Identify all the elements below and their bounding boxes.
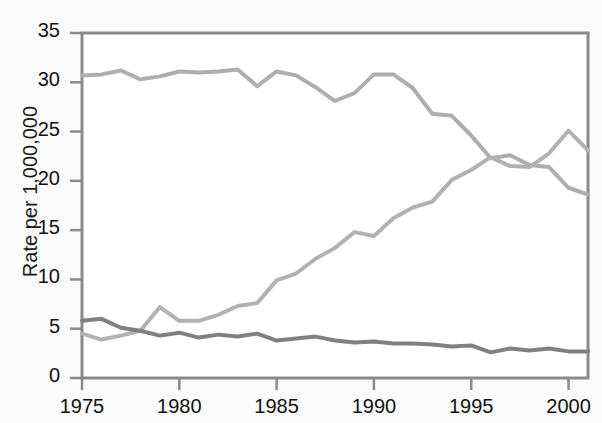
x-tick-label: 1990 (334, 395, 414, 418)
plot-frame (82, 33, 588, 378)
x-tick-label: 1980 (139, 395, 219, 418)
x-tick-label: 2000 (529, 395, 602, 418)
y-tick-label: 15 (20, 216, 60, 239)
x-tick-label: 1985 (237, 395, 317, 418)
y-tick-label: 5 (20, 315, 60, 338)
y-tick-label: 25 (20, 118, 60, 141)
line-chart: Rate per 1,000,000 05101520253035 197519… (0, 0, 602, 423)
y-axis-ticks (70, 33, 82, 378)
y-tick-label: 0 (20, 364, 60, 387)
y-tick-label: 20 (20, 167, 60, 190)
y-tick-label: 35 (20, 19, 60, 42)
plot-svg (0, 0, 602, 423)
x-tick-label: 1995 (431, 395, 511, 418)
x-tick-label: 1975 (42, 395, 122, 418)
y-tick-label: 30 (20, 68, 60, 91)
plot-frame-rect (82, 33, 588, 378)
y-tick-label: 10 (20, 265, 60, 288)
x-axis-ticks (82, 378, 569, 390)
